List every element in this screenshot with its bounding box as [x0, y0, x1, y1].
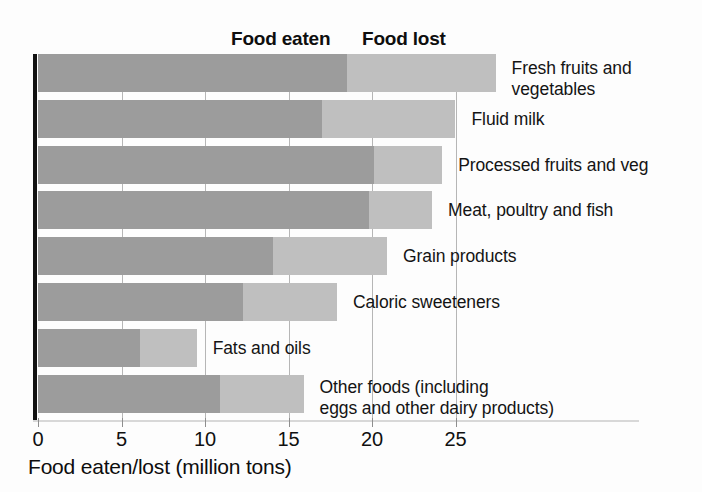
x-axis-tick [372, 418, 373, 427]
bar-segment-food-eaten [38, 100, 322, 138]
bar-segment-food-lost [347, 54, 496, 92]
y-axis-line [33, 54, 37, 420]
x-axis-tick [122, 418, 123, 427]
bar-segment-food-lost [322, 100, 456, 138]
category-label: Processed fruits and veg [458, 155, 648, 176]
category-label: Other foods (including eggs and other da… [320, 377, 554, 419]
gridline [456, 54, 457, 420]
bar-segment-food-lost [140, 329, 197, 367]
bar-segment-food-eaten [38, 375, 220, 413]
bar-segment-food-eaten [38, 191, 369, 229]
x-axis-tick-label: 25 [444, 428, 466, 451]
bar-segment-food-lost [220, 375, 304, 413]
bar-segment-food-eaten [38, 237, 273, 275]
x-axis-tick-label: 0 [32, 428, 43, 451]
bar-chart: Food eaten Food lost Fresh fruits and ve… [0, 0, 702, 492]
plot-area [38, 54, 638, 420]
category-label: Caloric sweeteners [353, 292, 500, 313]
legend-label-food-eaten: Food eaten [231, 28, 330, 50]
bar-segment-food-lost [369, 191, 432, 229]
category-label: Grain products [403, 246, 516, 267]
x-axis-tick [289, 418, 290, 427]
x-axis-tick [456, 418, 457, 427]
bar-segment-food-eaten [38, 283, 243, 321]
bar-segment-food-eaten [38, 54, 347, 92]
category-label: Fluid milk [472, 109, 545, 130]
bar-segment-food-eaten [38, 329, 140, 367]
category-label: Fresh fruits and vegetables [512, 58, 632, 100]
x-axis-title: Food eaten/lost (million tons) [28, 455, 292, 479]
bar-segment-food-lost [243, 283, 337, 321]
bar-segment-food-lost [273, 237, 387, 275]
bar-segment-food-eaten [38, 146, 374, 184]
bar-segment-food-lost [374, 146, 442, 184]
x-axis-tick [38, 418, 39, 427]
category-label: Fats and oils [213, 338, 311, 359]
x-axis-tick [205, 418, 206, 427]
legend-label-food-lost: Food lost [362, 28, 446, 50]
x-axis-tick-label: 10 [194, 428, 216, 451]
x-axis-tick-label: 5 [116, 428, 127, 451]
category-label: Meat, poultry and fish [448, 200, 613, 221]
x-axis-line [33, 420, 639, 422]
x-axis-tick-label: 15 [277, 428, 299, 451]
x-axis-tick-label: 20 [361, 428, 383, 451]
